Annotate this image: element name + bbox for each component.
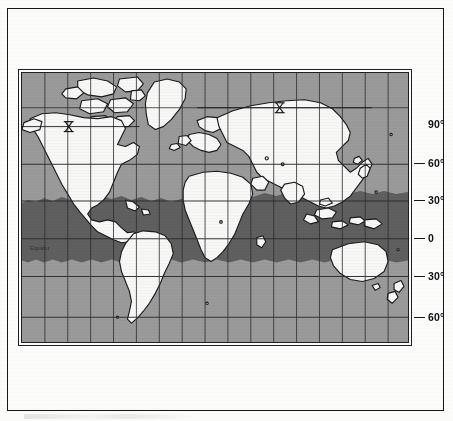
pacific-island-c — [397, 249, 399, 251]
latitude-label-90n: 90° — [428, 118, 444, 130]
map-inner-border: Equator — [21, 72, 409, 343]
map-svg — [22, 73, 408, 342]
latitude-label-60s: 60° — [428, 311, 444, 323]
latitude-tick-30s — [414, 276, 425, 277]
atlantic-island — [220, 221, 223, 224]
scan-artifact — [24, 414, 194, 419]
latitude-label-30n: 30° — [428, 194, 444, 206]
latitude-label-60n: 60° — [428, 157, 444, 169]
pacific-island-b — [375, 191, 377, 193]
pacific-island-a — [390, 133, 392, 135]
world-map: Equator — [18, 69, 412, 346]
latitude-tick-0 — [414, 238, 425, 239]
latitude-label-0: 0 — [428, 232, 434, 244]
figure-page: Equator 90° 60° 30° 0 30° 60° — [0, 0, 453, 421]
caspian-speck — [265, 157, 268, 160]
latitude-tick-60s — [414, 317, 425, 318]
equator-label: Equator — [30, 245, 50, 251]
south-atlantic-island — [206, 302, 208, 304]
latitude-label-30s: 30° — [428, 270, 444, 282]
map-canvas: Equator — [22, 73, 408, 342]
latitude-tick-30n — [414, 200, 425, 201]
latitude-tick-60n — [414, 163, 425, 164]
latitude-axis: 90° 60° 30° 0 30° 60° — [414, 69, 453, 346]
